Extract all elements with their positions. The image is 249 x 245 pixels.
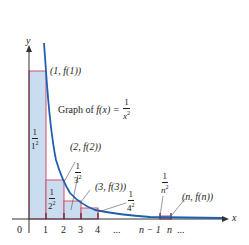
origin-label: 0 [17, 225, 22, 235]
tick-label-n-minus-1: n − 1 [139, 225, 161, 235]
rect-label-n: 1 n2 [161, 172, 169, 195]
tick-label-ellipsis-end: ... [177, 225, 185, 235]
tick-label-4: 4 [95, 225, 100, 235]
point-label-1: (1, f(1)) [50, 66, 81, 76]
tick-label-3: 3 [78, 225, 83, 235]
y-axis-label: y [26, 36, 30, 46]
graph-label-fraction: 1 x2 [123, 98, 130, 121]
diagram-canvas [0, 0, 249, 245]
graph-label-prefix: Graph of [58, 105, 96, 115]
x-axis-arrow-icon [222, 216, 229, 222]
y-axis-arrow-icon [26, 45, 32, 52]
point-label-n: (n, f(n)) [182, 192, 213, 202]
graph-label: Graph of f(x) = 1 x2 [58, 98, 130, 121]
rect-label-3: 1 32 [74, 162, 82, 185]
tick-label-ellipsis: ... [113, 225, 121, 235]
x-axis-label: x [232, 213, 236, 223]
tick-label-n: n [167, 225, 172, 235]
rect-label-1: 1 12 [31, 128, 39, 151]
tick-label-2: 2 [61, 225, 66, 235]
point-label-2: (2, f(2)) [70, 142, 101, 152]
rect-label-2: 1 22 [48, 188, 56, 211]
graph-label-func: f(x) = [96, 105, 122, 115]
rect-label-4: 1 42 [127, 190, 135, 213]
point-label-3: (3, f(3)) [95, 182, 126, 192]
tick-label-1: 1 [43, 225, 48, 235]
